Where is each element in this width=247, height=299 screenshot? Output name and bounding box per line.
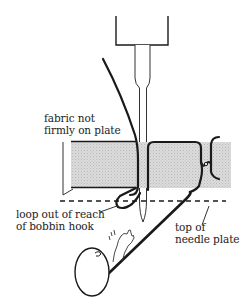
- sewing-diagram: [0, 0, 247, 299]
- loop-label-line2: of bobbin hook: [16, 221, 105, 233]
- fabric-label-line2: firmly on plate: [44, 125, 121, 137]
- fabric-label: fabric not firmly on plate: [44, 113, 121, 136]
- needle-bar-icon: [116, 16, 168, 45]
- fabric-label-line1: fabric not: [44, 113, 121, 125]
- needle-icon: [135, 45, 150, 222]
- bobbin-icon: [75, 248, 109, 296]
- plate-label-line2: needle plate: [175, 234, 239, 246]
- plate-label-line1: top of: [175, 222, 239, 234]
- plate-label: top of needle plate: [175, 222, 239, 245]
- loop-label-line1: loop out of reach: [16, 209, 105, 221]
- loop-label: loop out of reach of bobbin hook: [16, 209, 105, 232]
- waving-hand-icon: [109, 230, 134, 262]
